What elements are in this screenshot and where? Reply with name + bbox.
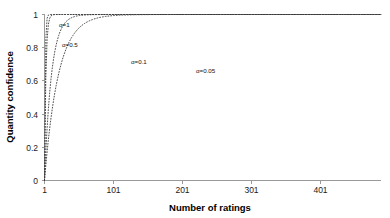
series-curve-alpha-1	[45, 15, 382, 181]
quantity-confidence-chart: 1 0.8 0.6 0.4 0.2 0 1 101 201 301 401	[0, 0, 390, 218]
y-tick-label: 0.4	[26, 110, 38, 120]
y-axis-title: Quantity confidence	[4, 51, 15, 142]
y-axis-tick-labels: 1 0.8 0.6 0.4 0.2 0	[26, 10, 38, 186]
series-curve-alpha-0-5	[45, 15, 382, 181]
series-annotations: α=1 α=0.5 α=0.1 α=0.05	[59, 21, 216, 74]
y-tick-label: 0	[33, 176, 38, 186]
y-tick-label: 0.8	[26, 43, 38, 53]
x-tick-label: 401	[313, 185, 327, 195]
y-tick-label: 1	[33, 10, 38, 20]
x-tick-label: 101	[106, 185, 120, 195]
series-curves	[45, 15, 382, 181]
series-label-alpha-0-1: α=0.1	[131, 58, 147, 65]
series-curve-alpha-0-05	[45, 15, 382, 181]
x-tick-label: 1	[42, 185, 47, 195]
x-axis-ticks	[45, 181, 321, 185]
series-curve-alpha-0-1	[45, 15, 382, 181]
x-tick-label: 201	[175, 185, 189, 195]
x-axis-tick-labels: 1 101 201 301 401	[42, 185, 328, 195]
series-label-alpha-1: α=1	[59, 21, 70, 28]
series-label-alpha-0-05: α=0.05	[196, 67, 216, 74]
y-tick-label: 0.2	[26, 143, 38, 153]
chart-figure: 1 0.8 0.6 0.4 0.2 0 1 101 201 301 401	[0, 0, 390, 218]
x-axis-title: Number of ratings	[169, 202, 251, 213]
series-label-alpha-0-5: α=0.5	[62, 41, 78, 48]
y-tick-label: 0.6	[26, 76, 38, 86]
x-tick-label: 301	[244, 185, 258, 195]
